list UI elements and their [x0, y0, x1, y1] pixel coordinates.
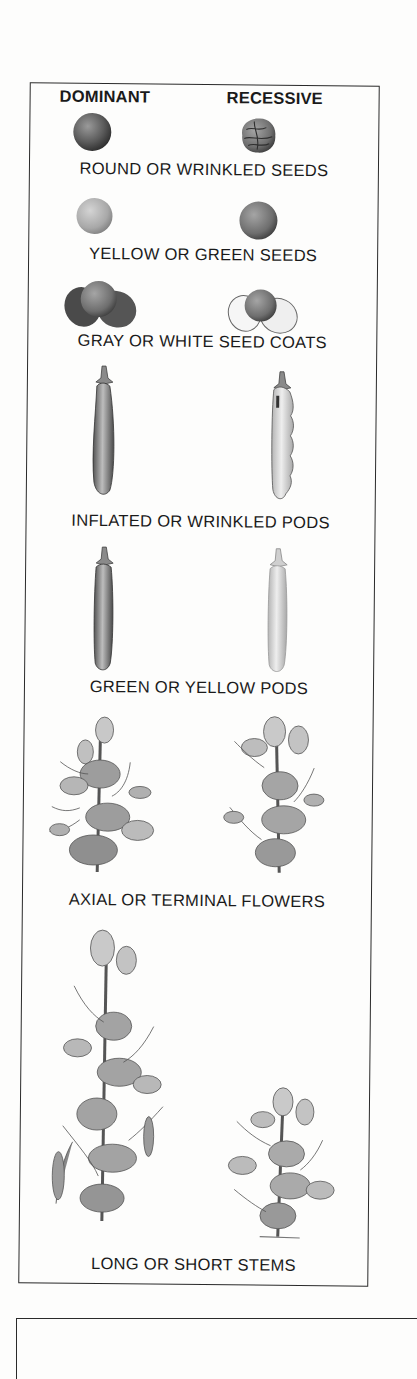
green-seed-icon — [237, 199, 281, 243]
short-stem-plant-icon — [220, 1081, 342, 1242]
wrinkled-seed-icon — [236, 113, 280, 157]
trait-caption-seed-coat: GRAY OR WHITE SEED COATS — [28, 330, 376, 352]
yellow-seed-icon — [72, 196, 116, 236]
mendel-traits-figure: DOMINANT RECESSIVE ROUND OR WRINKLED SEE… — [18, 82, 380, 1286]
trait-caption-seed-shape: ROUND OR WRINKLED SEEDS — [30, 158, 378, 180]
white-seed-coat-icon — [224, 283, 304, 336]
trait-caption-pod-color: GREEN OR YELLOW PODS — [25, 676, 373, 698]
green-pod-icon — [85, 545, 124, 675]
recessive-header: RECESSIVE — [227, 88, 323, 108]
next-figure-frame — [16, 1318, 417, 1379]
dominant-header: DOMINANT — [60, 87, 151, 107]
trait-caption-seed-color: YELLOW OR GREEN SEEDS — [29, 243, 377, 265]
inflated-pod-icon — [85, 364, 124, 504]
terminal-flower-plant-icon — [213, 707, 335, 878]
round-seed-icon — [70, 110, 114, 154]
trait-caption-stem-length: LONG OR SHORT STEMS — [19, 1253, 367, 1275]
trait-caption-pod-shape: INFLATED OR WRINKLED PODS — [26, 510, 374, 532]
trait-caption-flower-position: AXIAL OR TERMINAL FLOWERS — [23, 889, 371, 911]
constricted-pod-icon — [263, 370, 302, 506]
yellow-pod-icon — [259, 547, 298, 677]
gray-seed-coat-icon — [60, 277, 140, 330]
long-stem-plant-icon — [42, 926, 175, 1227]
axial-flower-plant-icon — [39, 711, 161, 877]
